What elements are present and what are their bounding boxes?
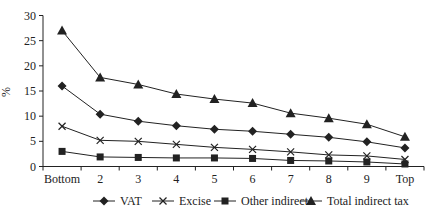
- series-total-indirect-tax: [57, 26, 410, 141]
- y-axis-label: %: [0, 87, 13, 97]
- x-tick-label: 6: [250, 172, 256, 186]
- x-tick-label: 8: [326, 172, 332, 186]
- diamond-marker-icon: [210, 125, 219, 134]
- legend-label: Total indirect tax: [327, 194, 409, 208]
- x-tick-label: Top: [396, 172, 415, 186]
- square-marker-icon: [135, 154, 142, 161]
- y-tick-label: 25: [24, 34, 36, 48]
- square-marker-icon: [325, 157, 332, 164]
- legend-item: VAT: [93, 194, 142, 208]
- x-tick-label: 5: [211, 172, 217, 186]
- square-marker-icon: [401, 160, 408, 167]
- legend-item: Other indirect: [214, 194, 309, 208]
- y-tick-label: 15: [24, 84, 36, 98]
- diamond-marker-icon: [286, 130, 295, 139]
- x-axis: Bottom23456789Top: [43, 167, 424, 186]
- x-tick-label: 3: [135, 172, 141, 186]
- diamond-marker-icon: [134, 117, 143, 126]
- x-tick-label: 4: [173, 172, 179, 186]
- diamond-marker-icon: [96, 110, 105, 119]
- square-marker-icon: [97, 153, 104, 160]
- diamond-marker-icon: [324, 133, 333, 142]
- legend-item: Excise: [152, 194, 211, 208]
- series-line: [62, 126, 405, 159]
- square-marker-icon: [287, 157, 294, 164]
- series-vat: [58, 81, 410, 152]
- legend-label: Excise: [179, 194, 211, 208]
- series-line: [62, 86, 405, 148]
- series-line: [62, 151, 405, 164]
- square-marker-icon: [249, 155, 256, 162]
- triangle-marker-icon: [57, 26, 67, 35]
- legend-label: Other indirect: [241, 194, 309, 208]
- series-layer: [57, 26, 410, 168]
- square-marker-icon: [59, 148, 66, 155]
- x-tick-label: Bottom: [44, 172, 81, 186]
- square-marker-icon: [363, 158, 370, 165]
- square-marker-icon: [173, 154, 180, 161]
- y-tick-label: 10: [24, 109, 36, 123]
- series-line: [62, 31, 405, 137]
- legend-label: VAT: [120, 194, 142, 208]
- legend-item: Total indirect tax: [300, 194, 409, 208]
- y-tick-label: 30: [24, 9, 36, 23]
- line-chart: 051015202530 Bottom23456789Top % VATExci…: [0, 0, 435, 214]
- diamond-marker-icon: [362, 137, 371, 146]
- x-marker-icon: [59, 123, 66, 130]
- legend: VATExciseOther indirectTotal indirect ta…: [93, 194, 409, 208]
- diamond-marker-icon: [58, 81, 67, 90]
- square-marker-icon: [211, 154, 218, 161]
- diamond-marker-icon: [248, 127, 257, 136]
- y-tick-label: 5: [30, 134, 36, 148]
- square-marker-icon: [222, 198, 229, 205]
- series-other-indirect: [59, 148, 409, 168]
- x-tick-label: 9: [364, 172, 370, 186]
- diamond-marker-icon: [172, 121, 181, 130]
- triangle-marker-icon: [400, 132, 410, 141]
- x-tick-label: 2: [97, 172, 103, 186]
- diamond-marker-icon: [400, 143, 409, 152]
- y-axis: 051015202530: [24, 9, 43, 174]
- diamond-marker-icon: [100, 197, 109, 206]
- x-tick-label: 7: [288, 172, 294, 186]
- y-tick-label: 0: [30, 160, 36, 174]
- y-tick-label: 20: [24, 59, 36, 73]
